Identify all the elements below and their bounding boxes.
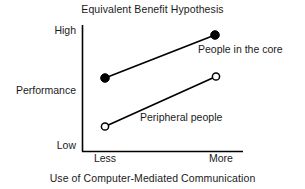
data-point-peripheral-more: [212, 73, 219, 80]
y-axis-tick-low: Low: [36, 140, 76, 151]
y-axis-label: Performance: [2, 85, 76, 96]
data-point-peripheral-less: [101, 123, 108, 130]
chart-figure: Equivalent Benefit Hypothesis High Perfo…: [0, 0, 305, 189]
x-axis-label: Use of Computer-Mediated Communication: [0, 173, 305, 184]
y-axis-tick-high: High: [36, 25, 76, 36]
x-axis-tick-more: More: [198, 153, 244, 164]
data-point-core-more: [211, 31, 220, 40]
series-label-peripheral: Peripheral people: [140, 112, 222, 123]
series-label-core: People in the core: [198, 44, 283, 55]
series-line-core: [105, 35, 215, 78]
x-axis-tick-less: Less: [82, 153, 128, 164]
data-point-core-less: [101, 74, 110, 83]
